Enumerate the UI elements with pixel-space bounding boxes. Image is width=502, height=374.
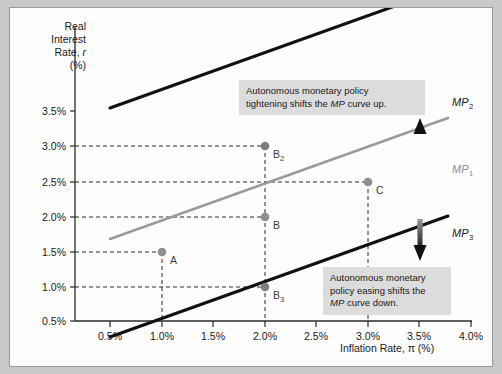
point-label-A: A bbox=[170, 254, 177, 266]
y-tick-label-2.5: 2.5% bbox=[24, 176, 66, 188]
x-axis-ticks bbox=[110, 321, 471, 327]
x-tick-label-1.5: 1.5% bbox=[191, 330, 235, 342]
curve-label-mp1: MP1 bbox=[452, 163, 473, 175]
shift-arrows bbox=[414, 118, 427, 261]
point-label-B3: B3 bbox=[273, 289, 284, 301]
point-label-C: C bbox=[376, 184, 384, 196]
tightening-callout: Autonomous monetary policytightening shi… bbox=[239, 80, 425, 115]
x-tick-label-2.0: 2.0% bbox=[243, 330, 287, 342]
x-tick-label-4.0: 4.0% bbox=[449, 330, 493, 342]
data-point-B3 bbox=[261, 283, 270, 292]
x-tick-label-3.0: 3.0% bbox=[346, 330, 390, 342]
point-label-B: B bbox=[273, 219, 280, 231]
y-tick-label-3.5: 3.5% bbox=[24, 105, 66, 117]
y-tick-label-1.0: 1.0% bbox=[24, 281, 66, 293]
y-tick-label-0.5: 0.5% bbox=[24, 315, 66, 327]
data-point-A bbox=[158, 248, 167, 257]
curve-label-mp2: MP2 bbox=[452, 96, 473, 108]
x-tick-label-0.5: 0.5% bbox=[88, 330, 132, 342]
y-tick-label-1.5: 1.5% bbox=[24, 246, 66, 258]
data-point-B bbox=[261, 213, 270, 222]
figure-panel: Real Interest Rate, r (%) Inflation Rate… bbox=[9, 7, 493, 367]
x-tick-label-1.0: 1.0% bbox=[140, 330, 184, 342]
y-axis-ticks bbox=[70, 111, 75, 321]
y-axis-title: Real Interest Rate, r (%) bbox=[24, 20, 86, 72]
y-tick-label-3.0: 3.0% bbox=[24, 140, 66, 152]
y-tick-label-2.0: 2.0% bbox=[24, 211, 66, 223]
x-axis-title: Inflation Rate, π (%) bbox=[340, 342, 434, 355]
x-tick-label-2.5: 2.5% bbox=[294, 330, 338, 342]
point-label-B2: B2 bbox=[273, 148, 284, 160]
curve-label-mp3: MP3 bbox=[452, 227, 473, 239]
easing-callout: Autonomous monetarypolicy easing shifts … bbox=[323, 267, 451, 315]
data-point-B2 bbox=[261, 142, 270, 151]
x-tick-label-3.5: 3.5% bbox=[397, 330, 441, 342]
data-point-C bbox=[364, 178, 373, 187]
